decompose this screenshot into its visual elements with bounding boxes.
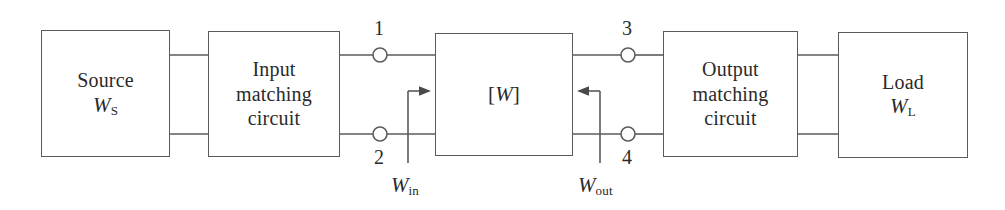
port-1-terminal-circle bbox=[373, 48, 387, 62]
gamma-in-symbol: Win bbox=[391, 173, 419, 197]
gamma-out-symbol: Wout bbox=[578, 173, 613, 197]
source-block[interactable]: Source WS bbox=[41, 30, 170, 157]
output-matching-line-3: circuit bbox=[704, 106, 756, 130]
output-matching-line-2: matching bbox=[692, 82, 768, 106]
output-matching-line-1: Output bbox=[702, 57, 759, 81]
input-matching-circuit-block[interactable]: Input matching circuit bbox=[208, 31, 340, 157]
port-4-label: 4 bbox=[622, 147, 632, 167]
input-matching-line-1: Input bbox=[252, 57, 295, 81]
gamma-out-label: Wout bbox=[578, 175, 613, 197]
two-port-matrix-label: [W] bbox=[488, 82, 520, 108]
output-matching-circuit-block[interactable]: Output matching circuit bbox=[663, 31, 798, 157]
input-matching-line-2: matching bbox=[236, 82, 312, 106]
gamma-in-label: Win bbox=[391, 175, 419, 197]
port-1-label: 1 bbox=[374, 18, 384, 38]
matrix-close-bracket: ] bbox=[513, 82, 520, 106]
matrix-symbol: W bbox=[495, 82, 513, 106]
block-diagram-canvas: Source WS Input matching circuit [W] Out… bbox=[0, 0, 1005, 210]
source-reflection-coefficient: WS bbox=[93, 93, 118, 119]
port-4-terminal-circle bbox=[621, 127, 635, 141]
gamma-out-arrow-head bbox=[577, 86, 589, 96]
source-block-label: Source bbox=[77, 68, 134, 92]
gamma-in-arrow-head bbox=[419, 86, 431, 96]
load-block[interactable]: Load WL bbox=[838, 32, 968, 158]
port-3-terminal-circle bbox=[621, 48, 635, 62]
port-3-label: 3 bbox=[622, 18, 632, 38]
two-port-network-block[interactable]: [W] bbox=[435, 33, 573, 156]
port-2-label: 2 bbox=[374, 147, 384, 167]
load-block-label: Load bbox=[882, 70, 924, 94]
input-matching-line-3: circuit bbox=[248, 106, 300, 130]
port-2-terminal-circle bbox=[373, 127, 387, 141]
load-reflection-coefficient: WL bbox=[890, 94, 916, 120]
